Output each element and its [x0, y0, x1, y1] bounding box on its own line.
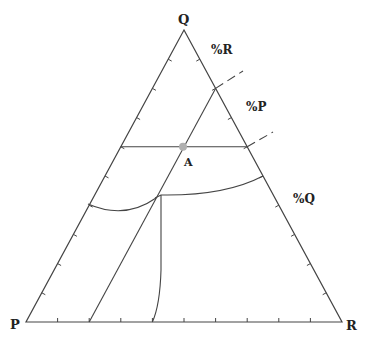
upper-boundary-curve	[155, 176, 263, 198]
axis-label-p: %P	[246, 100, 266, 114]
ternary-diagram: A Q P R %R %P %Q	[0, 0, 368, 349]
vertex-r-label: R	[346, 318, 357, 333]
vertical-boundary-curve	[152, 195, 161, 322]
left-edge-ticks	[42, 59, 172, 295]
constant-r-line	[89, 88, 215, 322]
vertex-p-label: P	[10, 317, 20, 332]
axis-label-q: %Q	[293, 192, 315, 206]
vertex-q-label: Q	[178, 12, 189, 27]
constant-q-dashed-extension	[247, 132, 273, 147]
point-a-label: A	[183, 156, 193, 169]
axis-label-r: %R	[211, 43, 233, 57]
point-a-marker	[179, 143, 187, 151]
left-boundary-curve	[88, 198, 156, 211]
ternary-triangle	[26, 30, 342, 322]
constant-r-dashed-extension	[216, 71, 243, 88]
